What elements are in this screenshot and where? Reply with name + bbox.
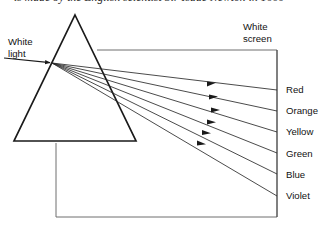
dispersed-ray-group (52, 63, 277, 196)
ray-blue (52, 63, 277, 174)
spectrum-label-yellow: Yellow (286, 126, 313, 137)
arrowhead-yellow (211, 108, 220, 113)
spectrum-label-orange: Orange (286, 105, 318, 116)
prism-triangle (14, 15, 136, 141)
white-light-label-line2: light (8, 48, 33, 60)
prism-dispersion-diagram (0, 0, 331, 235)
white-light-label-line1: White (8, 36, 33, 48)
support-box-outline (56, 143, 277, 217)
spectrum-label-blue: Blue (286, 169, 305, 180)
figure-canvas: is made by the English scientist Sir Isa… (0, 0, 331, 235)
white-screen-label-line1: White (243, 21, 272, 33)
arrowhead-blue (202, 130, 211, 135)
ray-orange (52, 63, 277, 111)
white-screen-label-line2: screen (243, 33, 272, 45)
spectrum-label-green: Green (286, 148, 313, 159)
white-screen-label: White screen (243, 21, 272, 45)
arrowhead-orange (209, 95, 218, 100)
arrowhead-violet (197, 141, 206, 146)
ray-violet (52, 63, 277, 196)
white-light-label: White light (8, 36, 33, 60)
spectrum-label-violet: Violet (286, 190, 310, 201)
spectrum-label-red: Red (286, 84, 304, 95)
arrowhead-green (207, 120, 216, 125)
ray-yellow (52, 63, 277, 132)
